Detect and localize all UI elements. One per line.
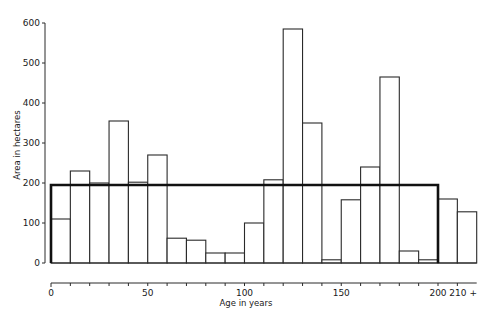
x-tick-label: 210 +: [449, 288, 477, 298]
y-tick-label: 0: [34, 258, 40, 268]
histogram-bar: [245, 223, 264, 263]
y-tick-label: 400: [23, 98, 40, 108]
histogram-bar: [399, 251, 418, 263]
x-tick-label: 200: [429, 288, 446, 298]
histogram-bar: [341, 200, 360, 263]
histogram-bar: [90, 183, 109, 263]
histogram-bar: [109, 121, 128, 263]
histogram-bar: [148, 155, 167, 263]
histogram-bar: [380, 77, 399, 263]
histogram-bar: [167, 238, 186, 263]
histogram-bar: [283, 29, 302, 263]
histogram-bar: [303, 123, 322, 263]
x-axis-title: Age in years: [220, 298, 274, 308]
histogram-bar: [128, 182, 147, 263]
histogram-chart: 0100200300400500600 050100150200210 + Ar…: [0, 0, 492, 322]
y-tick-label: 500: [23, 58, 40, 68]
x-tick-label: 50: [142, 288, 154, 298]
histogram-bar: [225, 253, 244, 263]
histogram-bar: [361, 167, 380, 263]
histogram-bar: [206, 253, 225, 263]
histogram-bar: [457, 212, 476, 263]
y-tick-label: 100: [23, 218, 40, 228]
y-tick-label: 300: [23, 138, 40, 148]
histogram-bar: [438, 199, 457, 263]
x-tick-label: 100: [236, 288, 253, 298]
histogram-bar: [264, 180, 283, 263]
x-tick-label: 150: [333, 288, 350, 298]
y-axis: 0100200300400500600: [23, 18, 45, 268]
histogram-bar: [186, 240, 205, 263]
y-tick-label: 200: [23, 178, 40, 188]
y-axis-title: Area in hectares: [12, 110, 22, 180]
x-tick-label: 0: [48, 288, 54, 298]
x-axis: 050100150200210 +: [48, 283, 477, 298]
histogram-bar: [51, 219, 70, 263]
histogram-bars: [51, 29, 477, 263]
y-tick-label: 600: [23, 18, 40, 28]
